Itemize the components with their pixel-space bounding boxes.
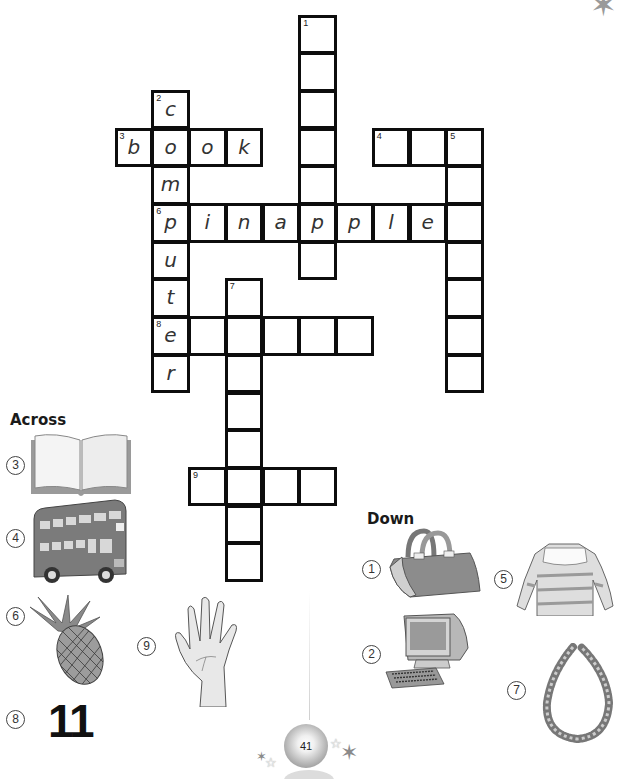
handwritten-letter: c: [154, 97, 187, 121]
crossword-cell[interactable]: [225, 542, 264, 582]
crossword-cell[interactable]: p: [298, 203, 337, 243]
clue-number-7: 7: [507, 681, 526, 700]
pineapple-icon: [28, 593, 108, 685]
crossword-cell[interactable]: 7: [225, 278, 264, 318]
down-heading: Down: [367, 510, 414, 528]
handwritten-letter: l: [375, 210, 408, 234]
crossword-cell[interactable]: [225, 467, 264, 507]
clue-number-3: 3: [6, 456, 25, 475]
crossword-cell[interactable]: 3b: [115, 128, 154, 168]
crossword-cell[interactable]: p: [335, 203, 374, 243]
clue-number-label: 9: [193, 470, 198, 480]
handwritten-letter: p: [301, 210, 334, 234]
crossword-cell[interactable]: [188, 316, 227, 356]
crossword-cell[interactable]: m: [151, 165, 190, 205]
handwritten-letter: a: [265, 210, 298, 234]
handwritten-letter: o: [154, 135, 187, 159]
handwritten-letter: t: [154, 285, 187, 309]
number-eleven-clue: 11: [48, 694, 93, 748]
crossword-cell[interactable]: [262, 316, 301, 356]
star-icon: ✶: [590, 0, 617, 24]
crossword-cell[interactable]: [445, 241, 484, 281]
hand-icon: [172, 595, 252, 707]
handwritten-letter: p: [154, 210, 187, 234]
handwritten-letter: o: [191, 135, 224, 159]
handwritten-letter: r: [154, 361, 187, 385]
crossword-cell[interactable]: i: [188, 203, 227, 243]
page-number-badge: 41: [284, 724, 328, 768]
crossword-cell[interactable]: [445, 316, 484, 356]
crossword-cell[interactable]: t: [151, 278, 190, 318]
clue-number-9: 9: [137, 637, 156, 656]
clue-number-4: 4: [6, 529, 25, 548]
across-heading: Across: [10, 411, 66, 429]
crossword-cell[interactable]: [335, 316, 374, 356]
star-icon: ✶: [340, 740, 358, 766]
open-book-icon: [28, 432, 134, 500]
crossword-cell[interactable]: [445, 203, 484, 243]
crossword-cell[interactable]: a: [262, 203, 301, 243]
crossword-cell[interactable]: [298, 52, 337, 92]
crossword-cell[interactable]: [225, 354, 264, 394]
crossword-cell[interactable]: [445, 354, 484, 394]
crossword-cell[interactable]: u: [151, 241, 190, 281]
handwritten-letter: e: [412, 210, 445, 234]
crossword-cell[interactable]: 4: [372, 128, 411, 168]
double-decker-bus-icon: [30, 499, 130, 589]
crossword-cell[interactable]: [298, 241, 337, 281]
crossword-cell[interactable]: [225, 392, 264, 432]
clue-number-label: 7: [230, 281, 235, 291]
crossword-cell[interactable]: 8e: [151, 316, 190, 356]
handwritten-letter: i: [191, 210, 224, 234]
crossword-cell[interactable]: 6p: [151, 203, 190, 243]
crossword-cell[interactable]: 9: [188, 467, 227, 507]
handwritten-letter: p: [338, 210, 371, 234]
handwritten-letter: u: [154, 248, 187, 272]
necklace-icon: [537, 643, 617, 747]
crossword-cell[interactable]: 1: [298, 15, 337, 55]
crossword-cell[interactable]: [445, 278, 484, 318]
crossword-cell[interactable]: [445, 165, 484, 205]
crossword-cell[interactable]: k: [225, 128, 264, 168]
handwritten-letter: n: [228, 210, 261, 234]
crossword-cell[interactable]: [298, 316, 337, 356]
clue-number-label: 4: [377, 131, 382, 141]
crossword-cell[interactable]: [298, 467, 337, 507]
crossword-cell[interactable]: [225, 316, 264, 356]
crossword-cell[interactable]: [298, 128, 337, 168]
handbag-icon: [388, 527, 484, 603]
crossword-cell[interactable]: o: [188, 128, 227, 168]
crossword-cell[interactable]: o: [151, 128, 190, 168]
computer-icon: [384, 610, 474, 690]
handwritten-letter: m: [154, 172, 187, 196]
crossword-cell[interactable]: n: [225, 203, 264, 243]
crossword-cell[interactable]: e: [409, 203, 448, 243]
clue-number-1: 1: [362, 560, 381, 579]
clue-number-2: 2: [362, 645, 381, 664]
crossword-cell[interactable]: 2c: [151, 90, 190, 130]
crossword-cell[interactable]: [298, 165, 337, 205]
clue-number-5: 5: [494, 570, 513, 589]
hanging-thread: [309, 590, 310, 720]
handwritten-letter: k: [228, 135, 261, 159]
crossword-cell[interactable]: [225, 429, 264, 469]
crossword-cell[interactable]: l: [372, 203, 411, 243]
crossword-cell[interactable]: 5: [445, 128, 484, 168]
clue-number-8: 8: [6, 710, 25, 729]
star-outline-icon: ☆: [265, 755, 277, 770]
clue-number-label: 5: [450, 131, 455, 141]
crossword-cell[interactable]: [225, 505, 264, 545]
handwritten-letter: e: [154, 323, 187, 347]
sweater-icon: [515, 540, 615, 616]
handwritten-letter: b: [118, 135, 151, 159]
clue-number-6: 6: [6, 607, 25, 626]
clue-number-label: 1: [303, 18, 308, 28]
crossword-cell[interactable]: r: [151, 354, 190, 394]
crossword-cell[interactable]: [409, 128, 448, 168]
crossword-cell[interactable]: [298, 90, 337, 130]
crossword-cell[interactable]: [262, 467, 301, 507]
